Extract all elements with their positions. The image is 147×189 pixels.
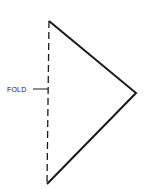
fold-label: FOLD <box>7 86 26 93</box>
triangle-outline <box>47 21 136 184</box>
fold-diagram-svg: FOLD <box>0 0 147 189</box>
fold-diagram: FOLD <box>0 0 147 189</box>
fold-line <box>47 21 49 184</box>
